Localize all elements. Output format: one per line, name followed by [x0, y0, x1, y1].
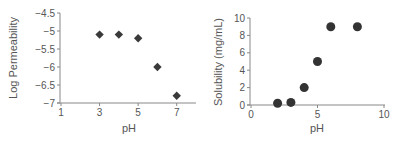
left-y-axis-title: Log Permeability — [7, 17, 19, 99]
y-tick-label: −5.5 — [35, 44, 55, 55]
right-x-axis-title: pH — [310, 122, 324, 134]
y-tick-label: −6.5 — [35, 80, 55, 91]
data-point-circle — [286, 98, 295, 107]
data-point-diamond — [153, 63, 161, 71]
right-data-points — [273, 22, 362, 108]
x-tick-label: 3 — [97, 107, 103, 118]
x-tick-label: 5 — [135, 107, 141, 118]
y-tick-label: −7 — [44, 98, 56, 109]
log-permeability-chart: −4.5−5−5.5−6−6.5−71357 pH Log Permeabili… — [7, 8, 196, 135]
data-point-diamond — [134, 34, 142, 42]
x-tick-label: 10 — [378, 109, 390, 120]
y-tick-label: 4 — [239, 65, 245, 76]
data-point-diamond — [115, 30, 123, 38]
right-axes: 02468100510 — [234, 13, 390, 121]
data-point-circle — [353, 22, 362, 31]
data-point-circle — [326, 22, 335, 31]
data-point-circle — [273, 99, 282, 108]
x-tick-label: 5 — [315, 109, 321, 120]
y-tick-label: 10 — [234, 13, 246, 24]
y-tick-label: 0 — [239, 100, 245, 111]
x-tick-label: 1 — [58, 107, 64, 118]
data-point-circle — [313, 57, 322, 66]
x-tick-label: 0 — [248, 109, 254, 120]
y-tick-label: 6 — [239, 47, 245, 58]
data-point-circle — [300, 83, 309, 92]
y-tick-label: 2 — [239, 82, 245, 93]
left-axes: −4.5−5−5.5−6−6.5−71357 — [35, 8, 196, 119]
y-tick-label: −5 — [44, 26, 56, 37]
data-point-diamond — [95, 30, 103, 38]
left-x-axis-title: pH — [122, 122, 136, 134]
left-data-points — [95, 30, 181, 100]
solubility-chart: 02468100510 pH Solubility (mg/mL) — [212, 13, 390, 135]
y-tick-label: 8 — [239, 30, 245, 41]
right-y-axis-title: Solubility (mg/mL) — [212, 18, 224, 106]
y-tick-label: −6 — [44, 62, 56, 73]
x-tick-label: 7 — [174, 107, 180, 118]
charts-canvas: −4.5−5−5.5−6−6.5−71357 pH Log Permeabili… — [0, 0, 403, 142]
data-point-diamond — [173, 92, 181, 100]
y-tick-label: −4.5 — [35, 8, 55, 19]
